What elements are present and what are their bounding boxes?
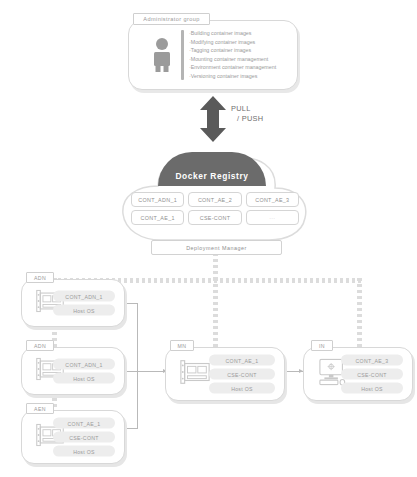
node-chip: CONT_AE_3 — [341, 355, 403, 366]
node-chip: Host OS — [53, 373, 115, 384]
node-link — [123, 303, 138, 304]
node-chip: CSE-CONT — [53, 432, 115, 443]
node-chip: Host OS — [341, 383, 403, 394]
administrator-task-list: ·Building container images ·Modifying co… — [189, 29, 293, 81]
task-item: ·Mounting container management — [189, 55, 293, 64]
node-chip: Host OS — [53, 446, 115, 457]
docker-registry-title: Docker Registry — [175, 171, 248, 181]
node-chip-stack: CONT_AE_1 CSE-CONT Host OS — [209, 355, 275, 394]
node-chip-stack: CONT_ADN_1 Host OS — [53, 359, 115, 384]
task-item: ·Tagging container images — [189, 46, 293, 55]
container-image-grid: CONT_ADN_1 CONT_AE_2 CONT_AE_3 CONT_AE_1… — [131, 192, 299, 225]
double-arrow-vertical-icon — [199, 96, 227, 142]
node-chip: CONT_ADN_1 — [53, 291, 115, 302]
administrator-group-tag: Administrator group — [133, 13, 210, 25]
node-adn-2[interactable]: CONT_ADN_1 Host OS — [21, 347, 125, 395]
deployment-bus-segment — [213, 278, 218, 348]
deployment-manager[interactable]: Deployment Manager — [151, 240, 282, 255]
node-chip-stack: CONT_AE_1 CSE-CONT Host OS — [53, 418, 115, 457]
node-tag-mn: MN — [170, 340, 194, 351]
container-image-item-more[interactable]: ··· — [246, 210, 299, 225]
node-tag-aen: AEN — [26, 403, 54, 414]
node-mn[interactable]: CONT_AE_1 CSE-CONT Host OS — [165, 347, 285, 401]
admin-divider — [181, 30, 184, 80]
node-chip: CONT_AE_1 — [53, 418, 115, 429]
task-item: ·Modifying container images — [189, 38, 293, 47]
node-adn-1[interactable]: CONT_ADN_1 Host OS — [21, 279, 125, 327]
node-chip: CONT_ADN_1 — [53, 359, 115, 370]
container-image-item[interactable]: CONT_AE_1 — [131, 210, 184, 225]
node-link-trunk — [137, 303, 138, 428]
person-icon — [151, 37, 173, 73]
node-link-to-mn — [137, 371, 164, 372]
container-image-item[interactable]: CONT_AE_3 — [246, 192, 299, 207]
node-tag-in: IN — [311, 340, 333, 351]
node-chip: Host OS — [209, 383, 275, 394]
deployment-bus-segment — [213, 253, 218, 281]
node-chip-stack: CONT_AE_3 CSE-CONT Host OS — [341, 355, 403, 394]
node-tag-adn-1: ADN — [26, 272, 54, 283]
pull-push-label: PULL / PUSH — [231, 104, 281, 124]
node-in[interactable]: CONT_AE_3 CSE-CONT Host OS — [303, 347, 413, 401]
network-card-icon — [179, 360, 211, 389]
node-chip: CSE-CONT — [209, 369, 275, 380]
container-image-item[interactable]: CONT_ADN_1 — [131, 192, 184, 207]
node-aen[interactable]: CONT_AE_1 CSE-CONT Host OS — [21, 410, 125, 464]
task-item: ·Building container images — [189, 29, 293, 38]
node-chip-stack: CONT_ADN_1 Host OS — [53, 291, 115, 316]
node-chip: Host OS — [53, 305, 115, 316]
node-link — [123, 428, 138, 429]
pull-label: PULL — [231, 104, 281, 114]
node-chip: CONT_AE_1 — [209, 355, 275, 366]
node-chip: CSE-CONT — [341, 369, 403, 380]
push-label: / PUSH — [231, 114, 281, 124]
administrator-group-panel: ·Building container images ·Modifying co… — [128, 20, 298, 90]
task-item: ·Versioning container images — [189, 72, 293, 81]
deployment-bus-segment — [357, 278, 362, 348]
docker-registry-header: Docker Registry — [158, 152, 266, 186]
container-image-item[interactable]: CONT_AE_2 — [188, 192, 241, 207]
node-tag-adn-2: ADN — [26, 340, 54, 351]
container-image-item[interactable]: CSE-CONT — [188, 210, 241, 225]
task-item: ·Environment container management — [189, 63, 293, 72]
